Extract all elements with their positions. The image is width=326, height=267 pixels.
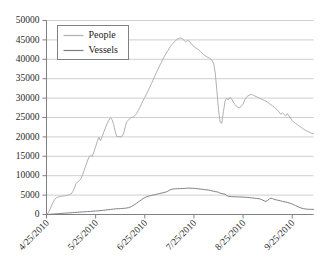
y-tick-label: 50000 bbox=[16, 15, 40, 25]
y-tick-label: 45000 bbox=[16, 35, 40, 45]
y-tick-label: 30000 bbox=[16, 93, 40, 103]
y-tick-label: 10000 bbox=[16, 170, 40, 180]
line-chart: 0500010000150002000025000300003500040000… bbox=[0, 0, 326, 267]
y-tick-label: 35000 bbox=[16, 73, 40, 83]
y-tick-label: 20000 bbox=[16, 132, 40, 142]
y-tick-label: 15000 bbox=[16, 151, 40, 161]
y-tick-label: 5000 bbox=[21, 190, 40, 200]
y-tick-label: 0 bbox=[35, 209, 40, 219]
y-tick-label: 25000 bbox=[16, 112, 40, 122]
chart-svg: 0500010000150002000025000300003500040000… bbox=[0, 0, 326, 267]
legend-label-vessels: Vessels bbox=[89, 44, 119, 55]
legend-label-people: People bbox=[89, 29, 117, 40]
chart-legend: PeopleVessels bbox=[58, 26, 129, 60]
y-tick-label: 40000 bbox=[16, 54, 40, 64]
